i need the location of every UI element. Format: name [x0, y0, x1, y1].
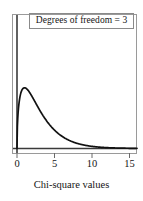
chi-square-plot [0, 0, 143, 201]
x-tick-label-0: 0 [5, 159, 29, 170]
degrees-of-freedom-annotation: Degrees of freedom = 3 [29, 13, 134, 29]
annotation-label: Degrees of freedom = 3 [36, 16, 127, 26]
x-axis-title: Chi-square values [0, 180, 143, 191]
x-tick-label-5: 5 [43, 159, 67, 170]
x-tick-label-15: 15 [118, 159, 142, 170]
plot-frame [13, 15, 137, 154]
x-tick-label-10: 10 [80, 159, 104, 170]
chi-square-figure: Degrees of freedom = 3 0 5 10 15 Chi-squ… [0, 0, 143, 201]
